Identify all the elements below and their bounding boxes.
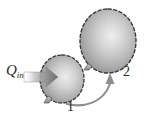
heat-in-label: Qin xyxy=(6,63,24,80)
balloon-process-figure: Qin 1 2 xyxy=(0,0,146,122)
state-1-label: 1 xyxy=(67,100,74,114)
heat-subscript: in xyxy=(17,70,24,80)
balloon-neck-1 xyxy=(44,96,52,103)
state-2-label: 2 xyxy=(123,65,130,79)
heat-symbol: Q xyxy=(6,62,17,78)
